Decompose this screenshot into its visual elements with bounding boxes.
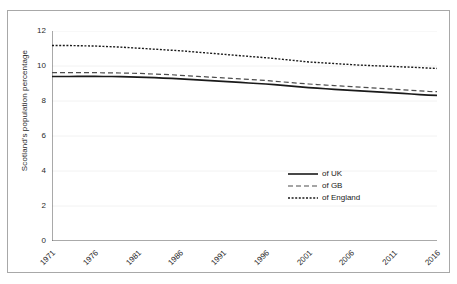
y-tick-label: 0 (6, 237, 46, 245)
gridlines (52, 31, 437, 206)
y-tick-label: 8 (6, 97, 46, 105)
chart-figure: Scotland's population percentage 0246810… (0, 0, 457, 284)
y-tick-label: 4 (6, 167, 46, 175)
y-tick-label: 2 (6, 202, 46, 210)
y-tick-label: 10 (6, 62, 46, 70)
plot-area (52, 31, 437, 241)
y-tick-label: 12 (6, 27, 46, 35)
legend-item-of-gb: of GB (288, 180, 360, 192)
data-series-group (52, 46, 437, 96)
legend-label-of-uk: of UK (322, 169, 342, 179)
legend-item-of-uk: of UK (288, 168, 360, 180)
legend-key-dashed-icon (288, 181, 318, 191)
legend-item-of-england: of England (288, 192, 360, 204)
chart-legend: of UK of GB of England (288, 168, 360, 204)
legend-label-of-england: of England (322, 193, 360, 203)
legend-label-of-gb: of GB (322, 181, 342, 191)
chart-svg (52, 31, 437, 241)
y-tick-label: 6 (6, 132, 46, 140)
series-line (52, 46, 437, 69)
legend-key-solid-icon (288, 169, 318, 179)
legend-key-dotted-icon (288, 193, 318, 203)
